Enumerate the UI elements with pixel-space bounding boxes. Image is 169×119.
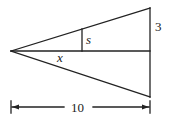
arrow-right-icon (142, 105, 149, 110)
triangle-diagram: s 3 x 10 (0, 0, 169, 119)
label-three: 3 (155, 19, 162, 34)
arrow-left-icon (12, 105, 19, 110)
label-s: s (86, 32, 91, 47)
lower-edge (11, 51, 150, 97)
label-ten: 10 (71, 100, 84, 115)
upper-edge (11, 8, 150, 51)
label-x: x (56, 50, 63, 65)
